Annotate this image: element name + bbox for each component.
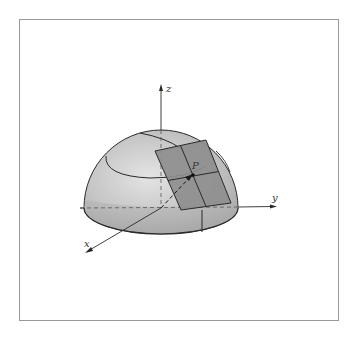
point-p-label: P: [191, 160, 199, 171]
z-axis-label: z: [165, 83, 172, 94]
point-p: [191, 173, 195, 177]
y-axis-label: y: [271, 192, 278, 203]
y-axis: [238, 207, 272, 208]
x-axis-label: x: [84, 238, 90, 249]
hemisphere-diagram: z y x P: [0, 0, 358, 340]
